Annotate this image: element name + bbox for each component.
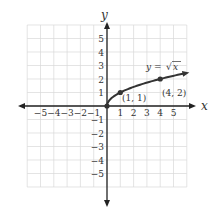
x-tick-label: −4 xyxy=(47,108,61,118)
y-tick-label: −4 xyxy=(91,156,105,166)
x-tick-label: 2 xyxy=(131,108,137,118)
x-tick-label: 5 xyxy=(171,108,177,118)
sqrt-function-graph: −5−4−3−2−11234554321−1−2−3−4−5 x y y = √… xyxy=(0,0,214,211)
y-tick-label: −2 xyxy=(91,129,104,139)
y-tick-label: −5 xyxy=(91,169,105,179)
y-tick-label: 3 xyxy=(98,61,104,71)
x-axis-left-arrow-icon xyxy=(18,103,25,109)
y-axis-label: y xyxy=(100,8,108,22)
equation-label: y = √ x xyxy=(145,62,181,73)
svg-text:x: x xyxy=(173,62,178,72)
svg-text:y =: y = xyxy=(145,62,162,72)
y-tick-label: 5 xyxy=(98,34,104,44)
point-marker xyxy=(104,103,109,108)
y-tick-label: −3 xyxy=(91,142,105,152)
point-label-4-2: (4, 2) xyxy=(162,88,186,98)
x-axis-label: x xyxy=(201,99,208,113)
y-tick-label: −1 xyxy=(91,115,104,125)
y-axis-down-arrow-icon xyxy=(104,200,110,207)
x-tick-label: 4 xyxy=(157,108,163,118)
curve-arrow-icon xyxy=(182,71,189,77)
x-tick-label: −3 xyxy=(60,108,74,118)
x-tick-label: 1 xyxy=(117,108,123,118)
y-axis-up-arrow-icon xyxy=(104,22,110,29)
y-tick-label: 2 xyxy=(98,75,104,85)
y-tick-label: 1 xyxy=(98,88,104,98)
point-marker xyxy=(158,76,163,81)
svg-text:√: √ xyxy=(166,62,172,72)
x-axis-right-arrow-icon xyxy=(189,103,196,109)
y-tick-label: 4 xyxy=(98,48,104,58)
x-tick-label: 3 xyxy=(144,108,150,118)
x-tick-label: −2 xyxy=(74,108,87,118)
x-tick-label: −5 xyxy=(34,108,48,118)
point-label-1-1: (1, 1) xyxy=(122,93,146,103)
